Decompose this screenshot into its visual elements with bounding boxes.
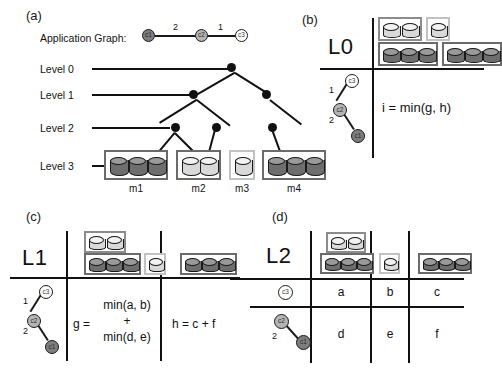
panel-b-vertical-divider <box>372 18 374 158</box>
chain-node-c2[interactable]: c2 <box>333 103 347 117</box>
disk-icon <box>202 258 217 273</box>
panel-c-horizontal-divider <box>10 277 240 279</box>
panel-c-chain-graph: 1 2 c3 c2 c1 <box>18 283 66 355</box>
row-2-graph: 2 c2 c1 <box>268 309 316 353</box>
chain-edge-c2-c1-weight: 2 <box>329 115 334 125</box>
disk-icon <box>89 236 104 251</box>
panel-b-level-label: L0 <box>328 34 353 60</box>
disk-icon <box>149 258 163 273</box>
panel-c-g-line2: + <box>98 314 156 328</box>
chain-node-c1[interactable]: c1 <box>45 340 59 354</box>
group-m3-box[interactable] <box>144 253 166 275</box>
chain-node-c1-label: c1 <box>355 133 362 140</box>
panel-c-label: (c) <box>26 209 41 224</box>
panel-b-label: (b) <box>302 12 318 27</box>
disk-icon <box>185 258 200 273</box>
group-m1-box[interactable] <box>378 42 438 66</box>
disk-icon <box>129 157 146 177</box>
machine-m2-label: m2 <box>176 183 221 194</box>
tree-node-root[interactable] <box>227 63 236 72</box>
tree-edge-root-left <box>196 72 235 95</box>
chain-node-c2[interactable]: c2 <box>27 314 41 328</box>
panel-d-hline-1 <box>230 278 464 280</box>
disk-icon <box>431 23 446 39</box>
panel-d-label: (d) <box>272 209 288 224</box>
disk-icon <box>357 258 371 272</box>
panel-c-g-line3: min(d, e) <box>98 330 156 344</box>
row-2-node-c2-label: c2 <box>278 318 285 325</box>
group-m2-box[interactable] <box>326 232 366 253</box>
disk-icon <box>182 157 199 177</box>
panel-b-formula: i = min(g, h) <box>382 100 451 115</box>
chain-node-c2-label: c2 <box>337 107 344 114</box>
panel-c: (c) L1 1 2 c3 c2 c1 g = min(a, b) + min(… <box>0 205 240 382</box>
disk-icon <box>383 23 399 39</box>
group-m4-box[interactable] <box>180 253 237 275</box>
disk-icon <box>106 258 121 273</box>
disk-icon <box>384 258 397 272</box>
chain-node-c2-label: c2 <box>31 318 38 325</box>
tree-node-l2-b[interactable] <box>212 123 221 132</box>
tree-node-l1-right[interactable] <box>262 90 271 99</box>
table-cell-e[interactable]: e <box>372 327 408 341</box>
machine-m1-label: m1 <box>104 183 168 194</box>
row-2-edge-weight: 2 <box>272 331 277 341</box>
group-m3-box[interactable] <box>426 17 450 41</box>
disk-icon <box>123 258 138 273</box>
panel-d-level-label: L2 <box>266 243 291 269</box>
panel-d-hline-2 <box>250 306 464 308</box>
disk-icon <box>331 237 345 251</box>
tree-node-l1-left[interactable] <box>189 90 198 99</box>
table-cell-b[interactable]: b <box>372 285 408 299</box>
table-cell-c[interactable]: c <box>410 285 464 299</box>
panel-c-g-line1: min(a, b) <box>98 298 156 312</box>
panel-c-divider-2 <box>160 231 162 361</box>
disk-icon <box>348 237 362 251</box>
tree-node-l2-c[interactable] <box>268 123 277 132</box>
table-cell-a[interactable]: a <box>312 285 370 299</box>
tree-edge-l1left-left <box>159 99 197 124</box>
group-m2-box[interactable] <box>84 231 126 253</box>
chain-node-c3-label: c3 <box>349 78 356 85</box>
disk-icon <box>107 236 122 251</box>
disk-icon <box>455 258 469 272</box>
row-1-node-c3[interactable]: c3 <box>278 285 293 300</box>
machine-m1-box[interactable] <box>104 150 168 180</box>
tree-node-l2-a[interactable] <box>171 123 180 132</box>
group-m4-box[interactable] <box>442 42 502 66</box>
panel-a: (a) Application Graph: 2 1 c1 c2 c3 Leve… <box>0 0 300 200</box>
disk-icon <box>89 258 104 273</box>
machine-m2-box[interactable] <box>176 150 221 180</box>
panel-d: (d) L2 c3 a b c 2 c2 c1 d e f <box>240 205 484 382</box>
table-cell-d[interactable]: d <box>312 327 370 341</box>
chain-node-c1[interactable]: c1 <box>351 129 365 143</box>
row-2-node-c1-label: c1 <box>300 339 307 346</box>
disk-icon <box>148 157 165 177</box>
disk-icon <box>423 258 437 272</box>
machine-m3-box[interactable] <box>229 150 255 180</box>
disk-icon <box>402 23 418 39</box>
group-m1-box[interactable] <box>84 253 141 275</box>
table-cell-f[interactable]: f <box>410 327 464 341</box>
disk-icon <box>483 48 499 64</box>
disk-icon <box>235 157 251 177</box>
disk-icon <box>219 258 234 273</box>
chain-edge-c3-c2-weight: 1 <box>23 296 28 306</box>
row-2-node-c1[interactable]: c1 <box>296 335 311 350</box>
tree-edge-l1left-right <box>197 99 231 126</box>
group-m2-box[interactable] <box>378 17 422 41</box>
group-m1-box[interactable] <box>320 253 374 274</box>
panel-b: (b) L0 1 2 c3 c2 c1 i = min(g, h) <box>300 0 484 200</box>
chain-edge-c3-c2-weight: 1 <box>329 85 334 95</box>
disk-icon <box>341 258 355 272</box>
group-m3-box[interactable] <box>379 253 400 274</box>
panel-c-g-prefix: g = <box>73 317 90 331</box>
row-2-node-c2[interactable]: c2 <box>274 314 289 329</box>
chain-node-c3[interactable]: c3 <box>345 74 359 88</box>
panel-b-horizontal-divider <box>320 68 484 70</box>
row-1-node-c3-label: c3 <box>282 289 289 296</box>
group-m4-box[interactable] <box>418 253 472 274</box>
machine-m3-label: m3 <box>229 183 255 194</box>
chain-node-c3[interactable]: c3 <box>39 285 53 299</box>
disk-icon <box>383 48 399 64</box>
